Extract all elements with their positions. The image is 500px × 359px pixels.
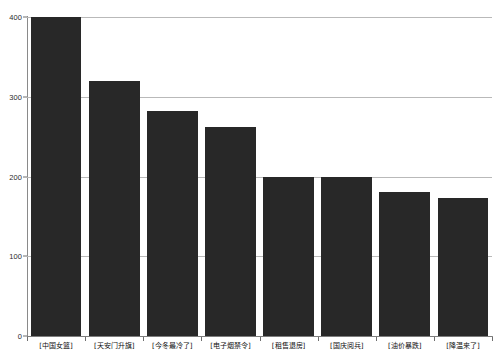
bar[interactable]: [205, 127, 256, 336]
x-axis-tick-mark: [492, 337, 493, 341]
x-axis-category-label: [天安门升旗]: [94, 341, 134, 351]
bar[interactable]: [89, 81, 140, 336]
x-axis-category-label: [今冬最冷了]: [152, 341, 192, 351]
x-axis-category-label: [租售退房]: [272, 341, 305, 351]
bar[interactable]: [438, 198, 489, 336]
x-axis-category-label: [降温来了]: [446, 341, 479, 351]
bars-group: [27, 17, 492, 336]
x-axis-category-label: [电子烟禁令]: [210, 341, 250, 351]
x-axis-category-label: [国庆阅兵]: [330, 341, 363, 351]
bar[interactable]: [379, 192, 430, 336]
bar[interactable]: [147, 111, 198, 336]
plot-area: 0100200300400: [27, 17, 492, 336]
x-axis-category-label: [油价暴跌]: [388, 341, 421, 351]
bar-chart: 0100200300400 [中国女篮][天安门升旗][今冬最冷了][电子烟禁令…: [0, 0, 500, 359]
bar[interactable]: [263, 177, 314, 337]
bar[interactable]: [31, 17, 82, 336]
x-axis-labels-group: [中国女篮][天安门升旗][今冬最冷了][电子烟禁令][租售退房][国庆阅兵][…: [27, 341, 492, 357]
bar[interactable]: [321, 177, 372, 337]
x-axis-category-label: [中国女篮]: [39, 341, 72, 351]
